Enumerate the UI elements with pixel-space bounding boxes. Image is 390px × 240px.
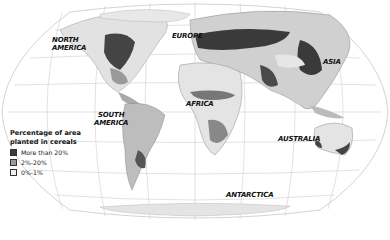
label-antarctica: ANTARCTICA xyxy=(226,191,273,199)
legend-label-low: 0%-1% xyxy=(21,169,43,176)
legend-item-high: More than 20% xyxy=(10,148,110,157)
label-south-america: SOUTH AMERICA xyxy=(94,111,128,127)
legend-label-high: More than 20% xyxy=(21,149,68,156)
legend-item-mid: 2%-20% xyxy=(10,158,110,167)
legend-title-line2: planted in cereals xyxy=(10,138,110,147)
label-north-america: NORTH AMERICA xyxy=(52,36,86,52)
legend-swatch-high xyxy=(10,149,17,156)
legend-label-mid: 2%-20% xyxy=(21,159,47,166)
legend-title-line1: Percentage of area xyxy=(10,129,110,138)
label-australia: AUSTRALIA xyxy=(278,135,320,143)
legend: Percentage of area planted in cereals Mo… xyxy=(10,129,110,177)
legend-item-low: 0%-1% xyxy=(10,168,110,177)
label-asia: ASIA xyxy=(323,58,341,66)
label-europe: EUROPE xyxy=(172,32,203,40)
legend-swatch-low xyxy=(10,169,17,176)
legend-swatch-mid xyxy=(10,159,17,166)
label-africa: AFRICA xyxy=(186,100,214,108)
